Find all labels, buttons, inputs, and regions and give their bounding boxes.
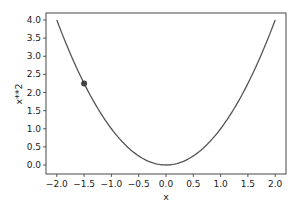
x-tick-label: 1.5 <box>241 179 255 189</box>
y-tick-label: 3.0 <box>27 51 42 61</box>
y-tick-label: 0.0 <box>27 160 42 170</box>
y-tick-label: 2.5 <box>27 69 41 79</box>
x-tick-label: 2.0 <box>268 179 283 189</box>
point-marker <box>81 80 87 86</box>
x-tick-label: −0.5 <box>128 179 150 189</box>
y-tick-label: 2.0 <box>27 88 42 98</box>
x-tick-label: 1.0 <box>213 179 228 189</box>
x-tick-label: −1.0 <box>100 179 122 189</box>
x-tick-label: −1.5 <box>73 179 95 189</box>
point-markers <box>81 80 87 86</box>
x-tick-label: 0.0 <box>159 179 174 189</box>
y-tick-label: 4.0 <box>27 15 42 25</box>
plot-area <box>46 13 286 174</box>
x-axis-ticks: −2.0−1.5−1.0−0.50.00.51.01.52.0 <box>46 174 283 189</box>
x-axis-label: x <box>163 191 169 202</box>
x-tick-label: 0.5 <box>186 179 200 189</box>
x-tick-label: −2.0 <box>46 179 68 189</box>
y-tick-label: 0.5 <box>27 142 41 152</box>
y-axis-label: x**2 <box>13 83 24 104</box>
y-tick-label: 3.5 <box>27 33 41 43</box>
y-tick-label: 1.5 <box>27 106 41 116</box>
parabola-chart: −2.0−1.5−1.0−0.50.00.51.01.52.0 0.00.51.… <box>0 0 303 211</box>
y-axis-ticks: 0.00.51.01.52.02.53.03.54.0 <box>27 15 46 170</box>
y-tick-label: 1.0 <box>27 124 42 134</box>
